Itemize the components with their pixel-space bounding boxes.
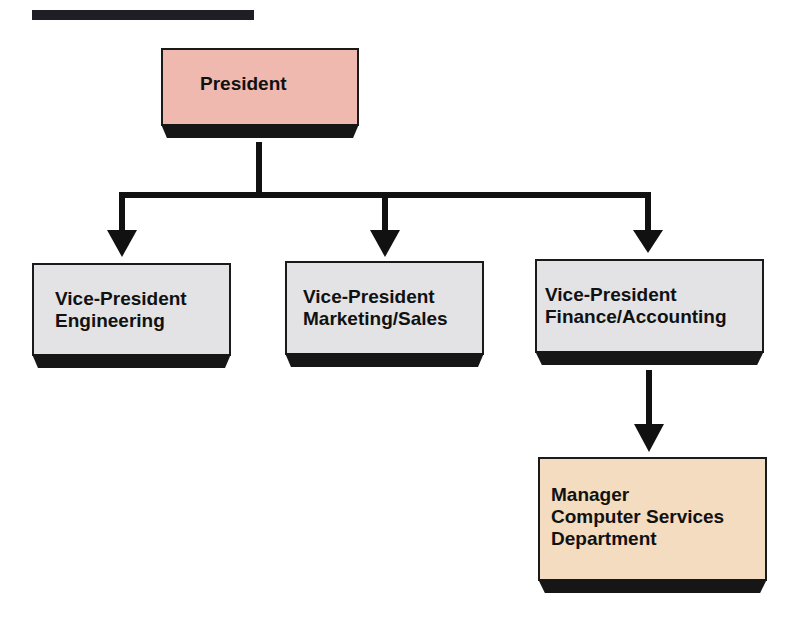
label-line: Vice-President [55, 288, 187, 310]
arrow-down-icon [370, 230, 400, 257]
node-manager-label: Manager Computer Services Department [551, 484, 724, 550]
node-vp-finance-label: Vice-President Finance/Accounting [545, 284, 727, 328]
node-vp-marketing-label: Vice-President Marketing/Sales [303, 286, 448, 330]
label-line: Finance/Accounting [545, 306, 727, 328]
label-line: Marketing/Sales [303, 308, 448, 330]
label-line: Manager [551, 484, 724, 506]
node-manager-shadow [538, 579, 767, 593]
label-line: Vice-President [303, 286, 448, 308]
arrow-down-icon [634, 424, 664, 452]
arrow-down-icon [633, 230, 663, 253]
node-vp-engineering-label: Vice-President Engineering [55, 288, 187, 332]
node-vp-engineering-shadow [32, 354, 231, 368]
node-president-label: President [200, 73, 287, 95]
node-vp-finance-shadow [535, 351, 764, 365]
label-line: Computer Services [551, 506, 724, 528]
label-line: Department [551, 528, 724, 550]
label-line: Vice-President [545, 284, 727, 306]
node-vp-marketing-shadow [285, 353, 484, 367]
arrow-down-icon [107, 230, 137, 257]
node-president-shadow [161, 124, 359, 138]
label-line: Engineering [55, 310, 187, 332]
